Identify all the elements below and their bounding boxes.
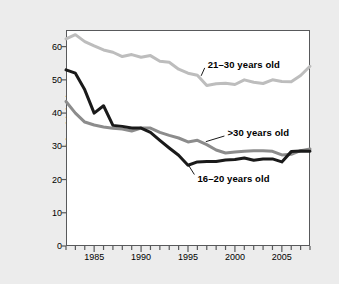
series-annotation-label: 21–30 years old [208, 59, 280, 70]
chart-figure: Percent of fatal injuries 0102030405060 … [0, 0, 339, 284]
annotation-leader-1 [206, 136, 225, 142]
series-annotation-label: >30 years old [227, 127, 289, 138]
chart-figure-inner: Percent of fatal injuries 0102030405060 … [8, 8, 331, 276]
series-annotation-label: 16–20 years old [197, 173, 269, 184]
annotation-leader-2 [189, 166, 194, 175]
annotation-leader-0 [201, 68, 205, 76]
chart-canvas [8, 8, 331, 276]
